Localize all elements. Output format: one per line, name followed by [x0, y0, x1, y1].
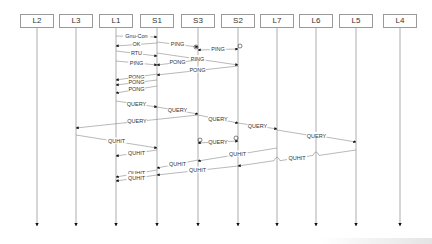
message-label: Gnu-Con	[125, 33, 147, 39]
message-label: PONG	[169, 59, 185, 65]
lifeline-header-l3: L3	[59, 14, 93, 28]
message-gnucon: Gnu-Con	[116, 33, 157, 40]
lost-message-icon	[198, 138, 202, 142]
message-label: QUHIT	[128, 150, 146, 156]
message-query: QUERY	[116, 100, 157, 107]
message-query: QUERY	[76, 115, 198, 128]
message-label: PING	[130, 60, 143, 66]
message-ping: PING	[194, 44, 242, 52]
message-quhit: QUHIT	[157, 166, 238, 175]
message-label: PING	[171, 41, 184, 47]
message-pong: PONG	[116, 79, 157, 86]
lifelines	[37, 28, 400, 226]
message-quhit: QUHIT	[116, 174, 157, 181]
message-label: QUERY	[127, 118, 147, 124]
message-label: PING	[211, 46, 224, 52]
message-label: OK	[133, 41, 141, 47]
message-label: QUERY	[248, 123, 268, 129]
message-label: RTU	[131, 50, 142, 56]
message-label: PONG	[189, 67, 205, 73]
message-label: QUERY	[168, 107, 188, 113]
lost-message-icon	[234, 136, 238, 140]
lifeline-header-l6: L6	[299, 14, 333, 28]
message-quhit: QUHIT	[76, 135, 157, 148]
message-label: QUHIT	[229, 151, 247, 157]
lifeline-header-l2: L2	[20, 14, 54, 28]
message-ping: PING	[157, 41, 198, 48]
message-label: QUHIT	[189, 167, 207, 173]
message-label: PONG	[128, 79, 144, 85]
message-label: QUERY	[307, 133, 327, 139]
message-query: QUERY	[157, 107, 198, 115]
message-label: QUHIT	[169, 161, 187, 167]
message-quhit: QUHIT	[116, 149, 157, 156]
message-quhit: QUHIT	[238, 150, 356, 166]
lifeline-header-s2: S2	[221, 14, 255, 28]
lifeline-header-l7: L7	[260, 14, 294, 28]
diagram-canvas: Gnu-ConOKPINGPINGRTUPINGPINGPONGPONGPONG…	[0, 0, 432, 244]
message-pong: PONG	[116, 86, 157, 94]
sequence-diagram: Gnu-ConOKPINGPINGRTUPINGPINGPONGPONGPONG…	[0, 0, 432, 244]
message-query: QUERY	[198, 136, 238, 145]
message-rtu: RTU	[116, 50, 157, 57]
message-label: QUERY	[208, 116, 228, 122]
bottom-shadow	[320, 238, 432, 244]
lifeline-header-l1: L1	[99, 14, 133, 28]
message-pong: PONG	[157, 66, 238, 75]
messages: Gnu-ConOKPINGPINGRTUPINGPINGPONGPONGPONG…	[76, 33, 356, 182]
message-label: QUHIT	[128, 175, 146, 181]
lost-message-icon	[238, 44, 242, 48]
message-label: QUERY	[208, 139, 228, 145]
message-ping: PING	[116, 59, 157, 66]
message-label: QUERY	[127, 101, 147, 107]
lifeline-header-l5: L5	[339, 14, 373, 28]
lifeline-header-s3: S3	[181, 14, 215, 28]
message-ok: OK	[116, 41, 157, 48]
lifeline-header-s1: S1	[140, 14, 174, 28]
message-label: PONG	[128, 86, 144, 92]
message-quhit: QUHIT	[198, 148, 277, 161]
message-query: QUERY	[277, 130, 356, 142]
message-label: QUHIT	[288, 155, 306, 161]
message-query: QUERY	[238, 122, 277, 129]
message-label: QUHIT	[108, 138, 126, 144]
lifeline-header-l4: L4	[383, 14, 417, 28]
message-query: QUERY	[198, 115, 238, 123]
